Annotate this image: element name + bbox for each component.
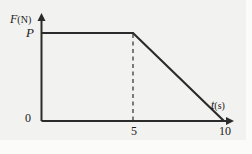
y-axis-unit: (N) <box>17 14 31 25</box>
peak-value-label: P <box>26 26 34 39</box>
y-axis-label: F(N) <box>10 13 31 25</box>
right-margin <box>246 0 252 154</box>
x-tick-label-5: 5 <box>124 125 144 137</box>
x-axis-unit: (s) <box>214 100 225 111</box>
y-axis-arrowhead <box>38 13 46 21</box>
x-tick-label-10: 10 <box>215 125 235 137</box>
force-curve <box>42 33 225 121</box>
force-time-graph-figure: F(N) t(s) P 0 5 10 <box>0 0 252 154</box>
x-axis-label: t(s) <box>211 99 225 111</box>
origin-label: 0 <box>25 112 31 124</box>
bottom-margin <box>0 140 252 154</box>
